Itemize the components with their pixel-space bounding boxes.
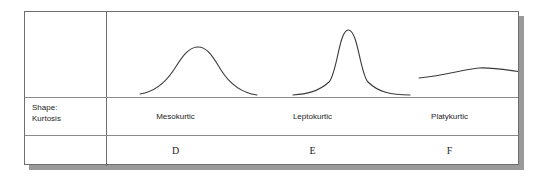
row-label-shape-kurtosis: Shape: Kurtosis xyxy=(32,102,104,134)
mesokurtic-curve xyxy=(140,47,257,95)
letter-cell-e: E xyxy=(244,136,381,165)
shape-cell-leptokurtic: Leptokurtic xyxy=(244,98,381,135)
letter-cell-d: D xyxy=(107,136,244,165)
curves-row xyxy=(107,12,518,97)
letter-cell-f: F xyxy=(381,136,518,165)
row-label-line-2: Kurtosis xyxy=(32,113,104,124)
shape-name-row: Mesokurtic Leptokurtic Platykurtic xyxy=(107,98,518,135)
letter-row: D E F xyxy=(107,136,518,165)
leptokurtic-curve xyxy=(293,30,410,95)
platykurtic-curve xyxy=(419,68,518,78)
kurtosis-table: Shape: Kurtosis Mesokurtic Leptokurtic P… xyxy=(24,11,519,165)
shape-cell-mesokurtic: Mesokurtic xyxy=(107,98,244,135)
shape-cell-platykurtic: Platykurtic xyxy=(381,98,518,135)
row-label-line-1: Shape: xyxy=(32,102,104,113)
kurtosis-figure: Shape: Kurtosis Mesokurtic Leptokurtic P… xyxy=(0,0,545,179)
